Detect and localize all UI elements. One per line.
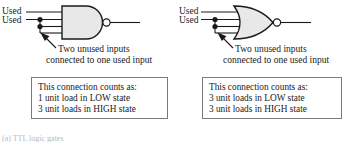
panel-nor: Used Used Two unused inputs connected to… xyxy=(175,0,349,142)
nand-callout-line-2: connected to one used input xyxy=(46,55,152,66)
nor-load-box: This connection counts as: 3 unit loads … xyxy=(202,77,342,119)
nand-input-label-2: Used xyxy=(2,15,22,25)
nand-gate-body xyxy=(62,6,103,39)
nand-input-wires xyxy=(26,12,62,33)
nand-callout-line-1: Two unused inputs xyxy=(58,44,130,55)
nand-load-line-3: 3 unit loads in HIGH state xyxy=(38,104,161,115)
nor-callout-arrow xyxy=(219,34,234,49)
nor-callout-line-2: connected to one used input xyxy=(223,55,329,66)
inversion-bubble-icon xyxy=(103,19,110,26)
panel-nand: Used Used Two unused inputs connected to… xyxy=(0,0,174,142)
nor-load-line-2: 3 unit loads in LOW state xyxy=(209,93,335,104)
nand-load-line-1: This connection counts as: xyxy=(38,82,161,93)
junction-dot xyxy=(37,24,42,29)
junction-dot xyxy=(212,17,217,22)
junction-dot xyxy=(212,24,217,29)
nor-gate-body xyxy=(234,6,273,39)
figure-caption: (a) TTL logic gates xyxy=(2,134,64,142)
junction-dot xyxy=(37,17,42,22)
nand-load-box: This connection counts as: 1 unit load i… xyxy=(31,77,168,119)
nand-callout-arrow xyxy=(42,34,57,49)
nor-input-wires xyxy=(201,12,243,33)
nor-callout-line-1: Two unused inputs xyxy=(235,44,307,55)
nor-load-line-3: 3 unit loads in HIGH state xyxy=(209,104,335,115)
nand-load-line-2: 1 unit load in LOW state xyxy=(38,93,161,104)
nor-input-label-2: Used xyxy=(179,15,199,25)
nor-load-line-1: This connection counts as: xyxy=(209,82,335,93)
inversion-bubble-icon xyxy=(273,19,280,26)
